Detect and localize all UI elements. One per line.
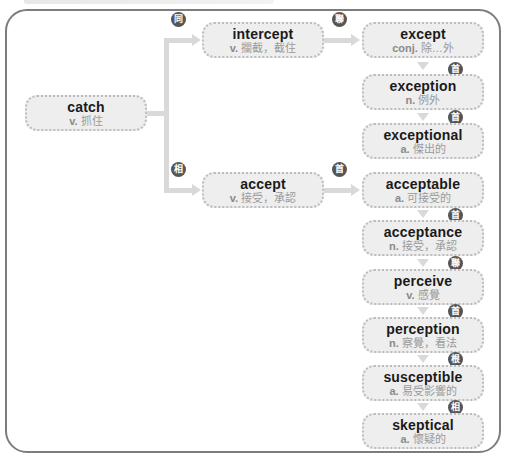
node-definition: conj.除…外 [364,42,482,55]
arrow-down-4 [417,259,429,267]
node-word: intercept [204,26,322,42]
node-perceive: perceive v.感覺 [362,269,484,305]
node-acceptable: acceptable a.可接受的 [362,172,484,208]
node-exceptional: exceptional a.傑出的 [362,123,484,159]
connector-to-accept [164,188,194,193]
arrow-down-7 [417,403,429,411]
connector-root-stem [146,111,166,116]
node-definition: v.攔截，截住 [204,42,322,55]
relation-badge-link: 聯 [332,12,347,27]
node-susceptible: susceptible a.易受影響的 [362,365,484,401]
arrow-down-1 [417,62,429,70]
meaning: 察覺，看法 [402,337,457,349]
meaning: 懷疑的 [413,433,446,445]
connector-accept-acceptable [322,188,352,193]
meaning: 感覺 [418,289,440,301]
meaning: 接受，承認 [241,192,296,204]
arrow-to-accept [192,184,201,196]
part-of-speech: a. [389,385,398,397]
node-word: acceptance [364,224,482,240]
arrow-down-2 [417,113,429,121]
node-word: accept [204,176,322,192]
node-accept: accept v.接受，承認 [202,172,324,208]
cropped-header-text [24,0,274,4]
node-word: except [364,26,482,42]
node-skeptical: skeptical a.懷疑的 [362,413,484,449]
relation-badge-synonym: 同 [171,12,186,27]
part-of-speech: n. [389,337,399,349]
node-definition: n.察覺，看法 [364,337,482,350]
arrow-to-except [351,34,360,46]
arrow-to-acceptable [351,184,360,196]
node-word: skeptical [364,417,482,433]
node-word: perceive [364,273,482,289]
node-definition: v.抓住 [27,115,145,128]
meaning: 例外 [418,94,440,106]
connector-to-intercept [164,38,194,43]
node-acceptance: acceptance n.接受，承認 [362,220,484,256]
meaning: 抓住 [81,115,103,127]
meaning: 可接受的 [407,192,451,204]
part-of-speech: v. [406,289,414,301]
meaning: 接受，承認 [402,240,457,252]
connector-intercept-except [322,38,352,43]
node-definition: a.易受影響的 [364,385,482,398]
part-of-speech: a. [400,143,409,155]
node-except: except conj.除…外 [362,22,484,58]
arrow-down-6 [417,355,429,363]
node-intercept: intercept v.攔截，截住 [202,22,324,58]
node-word: acceptable [364,176,482,192]
part-of-speech: v. [230,192,238,204]
relation-badge-prefix: 首 [332,162,347,177]
node-catch: catch v.抓住 [25,95,147,131]
part-of-speech: a. [395,192,404,204]
part-of-speech: n. [406,94,416,106]
meaning: 易受影響的 [402,385,457,397]
part-of-speech: conj. [392,42,418,54]
arrow-to-intercept [192,34,201,46]
node-word: exception [364,78,482,94]
node-word: perception [364,321,482,337]
part-of-speech: a. [400,433,409,445]
relation-badge-related: 相 [171,162,186,177]
node-definition: v.接受，承認 [204,192,322,205]
node-exception: exception n.例外 [362,74,484,110]
arrow-down-5 [417,307,429,315]
part-of-speech: v. [69,115,77,127]
connector-vertical-trunk [164,38,169,193]
node-definition: n.例外 [364,94,482,107]
node-word: susceptible [364,369,482,385]
part-of-speech: n. [389,240,399,252]
node-perception: perception n.察覺，看法 [362,317,484,353]
part-of-speech: v. [230,42,238,54]
node-definition: a.傑出的 [364,143,482,156]
node-definition: a.懷疑的 [364,433,482,446]
arrow-down-3 [417,210,429,218]
meaning: 傑出的 [413,143,446,155]
meaning: 除…外 [421,42,454,54]
meaning: 攔截，截住 [241,42,296,54]
node-definition: a.可接受的 [364,192,482,205]
node-definition: n.接受，承認 [364,240,482,253]
node-word: catch [27,99,145,115]
node-word: exceptional [364,127,482,143]
node-definition: v.感覺 [364,289,482,302]
